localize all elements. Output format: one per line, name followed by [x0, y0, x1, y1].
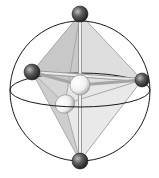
left-ligand-atom	[24, 64, 40, 80]
octahedral-diagram: Octahedral geometry inscribed in a spher…	[0, 0, 159, 178]
back-vertex-atom	[70, 75, 90, 95]
top-ligand-atom	[72, 6, 88, 22]
octahedron-sphere-figure	[0, 0, 159, 178]
right-ligand-atom	[135, 73, 149, 87]
bottom-ligand-atom	[72, 153, 88, 169]
